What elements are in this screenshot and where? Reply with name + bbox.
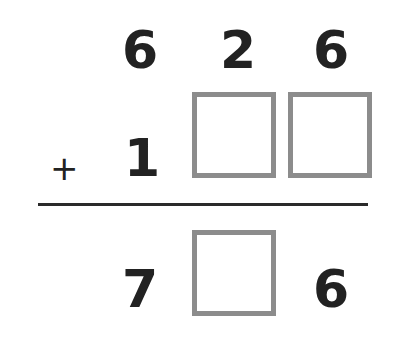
addend1-ones-digit: 6 <box>311 24 351 76</box>
sum-ones-digit: 6 <box>311 263 351 315</box>
addend1-hundreds-digit: 6 <box>120 24 160 76</box>
sum-divider-line <box>38 203 368 206</box>
plus-sign: + <box>50 151 79 185</box>
addend2-hundreds-digit: 1 <box>122 132 162 184</box>
sum-hundreds-digit: 7 <box>120 263 160 315</box>
addend2-tens-blank-box[interactable] <box>192 92 276 178</box>
addend2-ones-blank-box[interactable] <box>288 92 372 178</box>
addend1-tens-digit: 2 <box>218 24 258 76</box>
sum-tens-blank-box[interactable] <box>192 230 276 316</box>
